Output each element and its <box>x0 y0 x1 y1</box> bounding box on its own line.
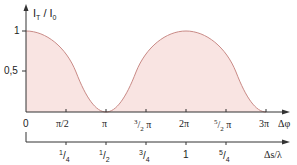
interference-chart <box>0 0 297 165</box>
x-tick-pi-half: π/2 <box>56 119 69 129</box>
s-tick-3quarter: 3/4 <box>139 148 150 165</box>
s-tick-quarter: 1/4 <box>59 148 70 165</box>
x-axis-title-path-difference: Δs/λ <box>264 150 282 160</box>
x-tick-0: 0 <box>23 119 29 129</box>
intensity-area <box>26 31 266 112</box>
y-axis-title: IT / I0 <box>33 8 56 23</box>
x-tick-5pi-half: 5/2 π <box>214 117 231 134</box>
x-tick-2pi: 2π <box>179 119 189 129</box>
x-axis-title-phase: Δφ <box>278 119 290 129</box>
x-axis-path-arrow-icon <box>282 140 290 145</box>
s-tick-half: 1/2 <box>99 148 110 165</box>
s-tick-1: 1 <box>183 150 189 160</box>
x-tick-pi: π <box>102 119 107 129</box>
s-tick-5quarter: 5/4 <box>219 148 230 165</box>
y-tick-half: 0,5 <box>4 66 18 76</box>
x-axis-phase-arrow-icon <box>282 110 290 115</box>
x-tick-3pi: 3π <box>259 119 269 129</box>
y-axis-arrow-icon <box>24 4 29 11</box>
y-tick-1: 1 <box>14 26 20 36</box>
x-tick-3pi-half: 3/2 π <box>134 117 151 134</box>
